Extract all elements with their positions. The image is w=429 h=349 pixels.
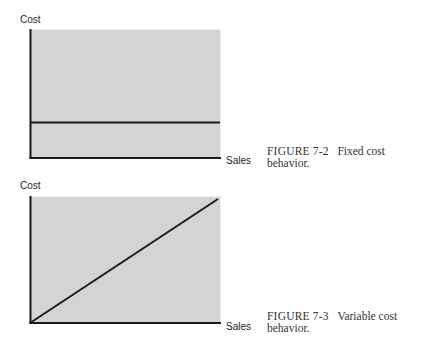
caption-title-cont: behavior.: [267, 322, 397, 334]
x-axis-label: Sales: [226, 156, 251, 166]
caption-number: FIGURE 7-3: [267, 310, 329, 322]
caption-number: FIGURE 7-2: [267, 145, 329, 157]
plot-area: [30, 197, 220, 323]
x-axis-label: Sales: [226, 322, 251, 332]
variable-cost-line: [30, 199, 218, 323]
plot-area: [30, 30, 220, 158]
caption-title-cont: behavior.: [267, 157, 385, 169]
caption-title: Variable cost: [337, 310, 397, 322]
caption-title: Fixed cost: [337, 145, 385, 157]
figure-caption: FIGURE 7-2 Fixed cost behavior.: [267, 145, 385, 169]
y-axis-label: Cost: [20, 181, 41, 191]
figure-caption: FIGURE 7-3 Variable cost behavior.: [267, 310, 397, 334]
